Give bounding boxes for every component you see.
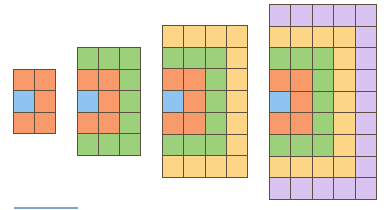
- cell-orange: [35, 91, 55, 111]
- cell-green: [206, 91, 226, 112]
- cell-green: [184, 48, 204, 69]
- cell-yellow: [291, 27, 311, 48]
- grid-1: [13, 69, 56, 134]
- cell-purple: [270, 5, 290, 26]
- cell-green: [184, 135, 204, 156]
- cell-orange: [291, 113, 311, 134]
- cell-orange: [270, 70, 290, 91]
- cell-purple: [356, 5, 376, 26]
- cell-yellow: [291, 157, 311, 178]
- cell-purple: [356, 113, 376, 134]
- cell-orange: [163, 69, 183, 90]
- cell-green: [120, 91, 140, 112]
- grid-2: [77, 47, 141, 156]
- cell-green: [120, 134, 140, 155]
- cell-green: [206, 135, 226, 156]
- cell-yellow: [270, 27, 290, 48]
- cell-yellow: [163, 26, 183, 47]
- cell-green: [313, 113, 333, 134]
- cell-yellow: [334, 135, 354, 156]
- cell-yellow: [227, 135, 247, 156]
- cell-purple: [356, 92, 376, 113]
- cell-purple: [313, 5, 333, 26]
- cell-blue: [163, 91, 183, 112]
- cell-orange: [78, 113, 98, 134]
- cell-yellow: [313, 157, 333, 178]
- cell-orange: [35, 70, 55, 90]
- cell-yellow: [184, 156, 204, 177]
- cell-purple: [356, 135, 376, 156]
- cell-purple: [334, 5, 354, 26]
- cell-orange: [270, 113, 290, 134]
- cell-yellow: [334, 92, 354, 113]
- cell-orange: [35, 113, 55, 133]
- cell-yellow: [163, 156, 183, 177]
- grid-3: [162, 25, 248, 178]
- cell-yellow: [184, 26, 204, 47]
- cell-orange: [184, 113, 204, 134]
- cell-yellow: [227, 156, 247, 177]
- cell-green: [270, 135, 290, 156]
- cell-green: [291, 135, 311, 156]
- cell-yellow: [313, 27, 333, 48]
- cell-yellow: [334, 113, 354, 134]
- cell-purple: [356, 48, 376, 69]
- cell-orange: [163, 113, 183, 134]
- cell-purple: [270, 178, 290, 199]
- cell-green: [78, 48, 98, 69]
- cell-blue: [78, 91, 98, 112]
- cell-green: [313, 92, 333, 113]
- cell-yellow: [334, 157, 354, 178]
- cell-green: [99, 134, 119, 155]
- cell-purple: [356, 157, 376, 178]
- cell-green: [313, 135, 333, 156]
- cell-green: [120, 70, 140, 91]
- cell-orange: [99, 91, 119, 112]
- cell-green: [120, 48, 140, 69]
- cell-yellow: [227, 69, 247, 90]
- cell-yellow: [227, 26, 247, 47]
- cell-green: [120, 113, 140, 134]
- cell-yellow: [270, 157, 290, 178]
- cell-green: [270, 48, 290, 69]
- cell-orange: [291, 70, 311, 91]
- cell-green: [206, 48, 226, 69]
- cell-orange: [99, 113, 119, 134]
- blue-underline: [14, 207, 78, 209]
- cell-purple: [334, 178, 354, 199]
- cell-orange: [184, 91, 204, 112]
- cell-green: [313, 48, 333, 69]
- cell-yellow: [227, 91, 247, 112]
- cell-blue: [270, 92, 290, 113]
- cell-green: [206, 69, 226, 90]
- cell-green: [163, 135, 183, 156]
- cell-yellow: [227, 113, 247, 134]
- cell-purple: [291, 178, 311, 199]
- cell-yellow: [334, 27, 354, 48]
- cell-purple: [291, 5, 311, 26]
- cell-green: [163, 48, 183, 69]
- cell-green: [291, 48, 311, 69]
- cell-orange: [78, 70, 98, 91]
- cell-purple: [356, 27, 376, 48]
- cell-orange: [184, 69, 204, 90]
- cell-purple: [356, 178, 376, 199]
- grid-4: [269, 4, 377, 200]
- cell-orange: [14, 113, 34, 133]
- cell-yellow: [206, 156, 226, 177]
- cell-orange: [291, 92, 311, 113]
- cell-blue: [14, 91, 34, 111]
- cell-yellow: [206, 26, 226, 47]
- cell-purple: [356, 70, 376, 91]
- cell-yellow: [334, 48, 354, 69]
- cell-green: [206, 113, 226, 134]
- cell-green: [99, 48, 119, 69]
- cell-green: [313, 70, 333, 91]
- cell-green: [78, 134, 98, 155]
- cell-purple: [313, 178, 333, 199]
- cell-orange: [14, 70, 34, 90]
- cell-yellow: [334, 70, 354, 91]
- cell-yellow: [227, 48, 247, 69]
- cell-orange: [99, 70, 119, 91]
